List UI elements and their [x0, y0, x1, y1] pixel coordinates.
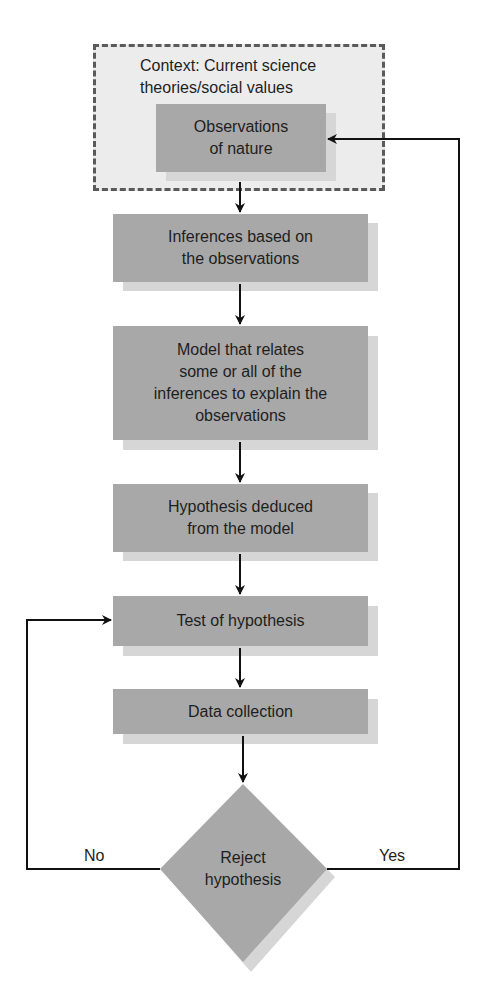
edge-label-no: No — [84, 847, 104, 865]
node-reject-line1: Reject — [183, 847, 303, 869]
arrow-yes-loop — [327, 139, 459, 869]
node-reject-line2: hypothesis — [183, 869, 303, 891]
arrow-no-loop — [27, 620, 160, 869]
node-reject: Reject hypothesis — [183, 847, 303, 891]
edge-label-yes: Yes — [379, 847, 405, 865]
connectors — [0, 0, 484, 992]
